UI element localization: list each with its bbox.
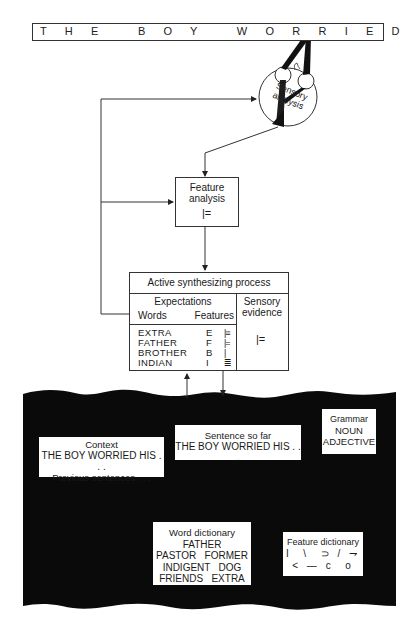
context-box: Context THE BOY WORRIED HIS . . . Previo…	[39, 437, 164, 477]
word-dictionary-line1: FATHER	[153, 539, 251, 551]
feature-analysis-box: Feature analysis |=	[175, 177, 239, 227]
expectations-list: EXTRA E |≡ FATHER F |= BROTHER B |≣ INDI…	[138, 328, 232, 368]
expectation-row: INDIAN I ⁞	[138, 358, 232, 368]
expectation-features-icon: ⁞	[224, 358, 226, 368]
grammar-box: Grammar NOUN ADJECTIVE	[322, 409, 376, 454]
grammar-line1: NOUN	[322, 425, 376, 436]
grammar-title: Grammar	[322, 414, 376, 425]
word-dictionary-line4: FRIENDS EXTRA	[153, 573, 251, 585]
context-title: Context	[39, 439, 164, 450]
sensory-evidence-label-line2: evidence	[236, 307, 288, 318]
expectations-panel: Expectations Words Features EXTRA E |≡ F…	[130, 293, 237, 370]
feature-analysis-label-line1: Feature	[176, 182, 238, 193]
expectations-label: Expectations	[130, 296, 236, 307]
context-line1: THE BOY WORRIED HIS . . .	[39, 450, 164, 472]
expectation-letter: I	[206, 358, 209, 368]
synthesizing-title: Active synthesizing process	[130, 273, 288, 294]
sensory-to-feature-arrow	[205, 127, 278, 176]
stimulus-sentence: T H E B O Y W O R R I E D H I S F A T H …	[32, 23, 384, 41]
word-dictionary-box: Word dictionary FATHER PASTOR FORMER IND…	[153, 522, 251, 585]
sensory-evidence-panel: Sensory evidence |=	[236, 293, 288, 370]
context-line2: Previous sentences . . .	[39, 472, 164, 483]
word-dictionary-line2: PASTOR FORMER	[153, 550, 251, 562]
grammar-line2: ADJECTIVE	[322, 436, 376, 447]
sensory-evidence-glyph-icon: |=	[256, 333, 265, 345]
sensory-evidence-label-line1: Sensory	[236, 296, 288, 307]
right-eye-icon	[298, 73, 314, 89]
sentence-so-far-line1: THE BOY WORRIED HIS . . .	[175, 441, 301, 463]
expectation-features-icon: |=	[224, 338, 230, 348]
feature-glyph-icon: |=	[202, 208, 211, 219]
active-synthesizing-process-box: Active synthesizing process Expectations…	[129, 272, 289, 371]
feature-dictionary-title: Feature dictionary	[283, 536, 363, 548]
expectation-features-icon: |≡	[224, 328, 230, 338]
sentence-so-far-title: Sentence so far	[175, 430, 301, 441]
word-dictionary-line3: INDIGENT DOG	[153, 562, 251, 574]
expectation-word: INDIAN	[138, 358, 173, 368]
stimulus-sentence-text: T H E B O Y W O R R I E D H I S F A T H …	[40, 25, 419, 37]
words-header: Words	[138, 310, 167, 321]
features-header: Features	[195, 310, 234, 321]
feature-dictionary-glyphs-row2: < — c o	[283, 560, 363, 572]
word-dictionary-title: Word dictionary	[153, 527, 251, 539]
feature-analysis-label-line2: analysis	[176, 193, 238, 204]
feature-dictionary-box: Feature dictionary I \ ⊃ / ⇁ < — c o	[283, 532, 363, 576]
sentence-so-far-box: Sentence so far THE BOY WORRIED HIS . . …	[175, 425, 301, 460]
feature-dictionary-glyphs-row1: I \ ⊃ / ⇁	[283, 548, 363, 560]
